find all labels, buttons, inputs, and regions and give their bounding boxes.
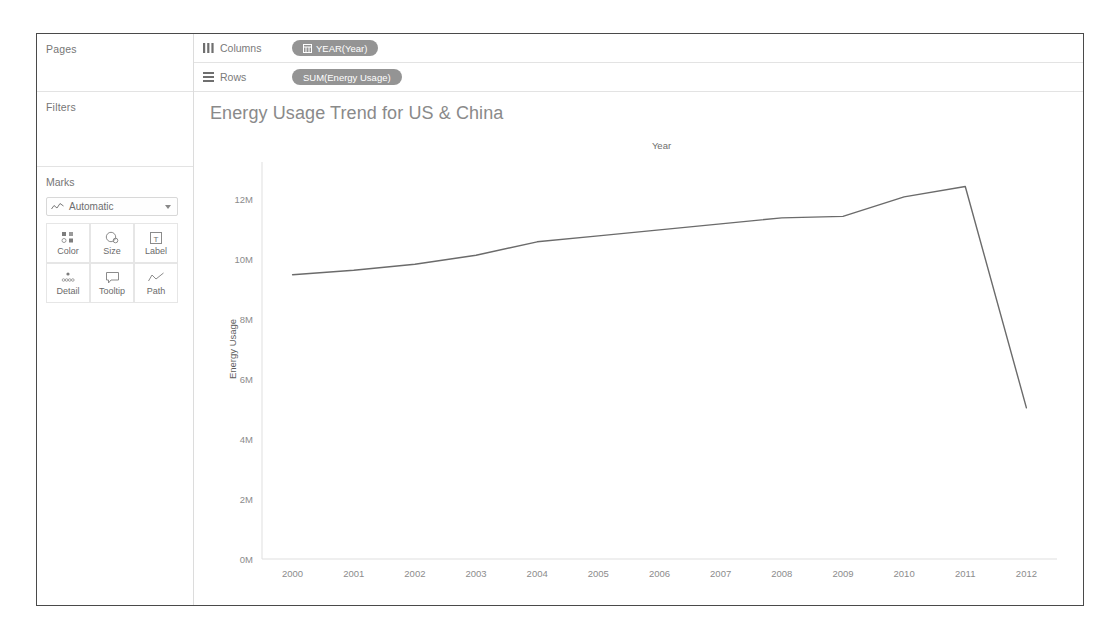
marks-button-detail[interactable]: Detail bbox=[46, 263, 90, 303]
filters-shelf[interactable]: Filters bbox=[37, 92, 193, 167]
y-axis-tick-label: 12M bbox=[235, 194, 254, 205]
marks-card: Marks Automatic bbox=[37, 167, 193, 605]
mark-type-dropdown[interactable]: Automatic bbox=[46, 197, 178, 216]
tooltip-bubble-icon bbox=[105, 270, 120, 285]
size-circles-icon bbox=[104, 230, 120, 245]
columns-icon bbox=[203, 43, 214, 53]
rows-icon bbox=[203, 72, 214, 82]
x-axis-tick-label: 2009 bbox=[832, 568, 853, 579]
line-chart-plot: 0M2M4M6M8M10M12M200020012002200320042005… bbox=[194, 92, 1083, 605]
marks-button-label: Path bbox=[147, 287, 166, 296]
marks-button-label[interactable]: T Label bbox=[134, 223, 178, 263]
left-sidebar: Pages Filters Marks Automatic bbox=[37, 34, 194, 605]
y-axis-tick-label: 2M bbox=[240, 494, 253, 505]
x-axis-tick-label: 2006 bbox=[649, 568, 670, 579]
pill-sum-energy-usage[interactable]: SUM(Energy Usage) bbox=[292, 69, 402, 85]
rows-shelf-label: Rows bbox=[220, 71, 292, 83]
marks-buttons-grid: Color Size T bbox=[46, 223, 178, 303]
marks-button-label: Detail bbox=[56, 287, 79, 296]
path-line-icon bbox=[148, 270, 164, 285]
x-axis-tick-label: 2000 bbox=[282, 568, 303, 579]
marks-button-path[interactable]: Path bbox=[134, 263, 178, 303]
series-line-0[interactable] bbox=[293, 186, 1027, 407]
y-axis-tick-label: 6M bbox=[240, 374, 253, 385]
filters-shelf-title: Filters bbox=[46, 101, 193, 113]
x-axis-tick-label: 2001 bbox=[343, 568, 364, 579]
line-chart-icon bbox=[51, 199, 64, 214]
x-axis-tick-label: 2007 bbox=[710, 568, 731, 579]
y-axis-tick-label: 4M bbox=[240, 434, 253, 445]
calendar-icon bbox=[303, 44, 312, 53]
marks-button-color[interactable]: Color bbox=[46, 223, 90, 263]
tableau-worksheet-frame: Pages Filters Marks Automatic bbox=[36, 33, 1084, 606]
visualization-canvas[interactable]: Energy Usage Trend for US & China Year E… bbox=[194, 92, 1083, 605]
x-axis-tick-label: 2002 bbox=[404, 568, 425, 579]
y-axis-tick-label: 10M bbox=[235, 254, 254, 265]
detail-dots-icon bbox=[60, 270, 76, 285]
columns-shelf[interactable]: Columns YEAR(Year) bbox=[194, 34, 1083, 63]
svg-text:T: T bbox=[154, 234, 159, 243]
marks-button-label: Size bbox=[103, 247, 121, 256]
x-axis-tick-label: 2011 bbox=[955, 568, 975, 579]
marks-button-size[interactable]: Size bbox=[90, 223, 134, 263]
y-axis-tick-label: 0M bbox=[240, 554, 253, 565]
pill-year[interactable]: YEAR(Year) bbox=[292, 40, 378, 56]
mark-type-label: Automatic bbox=[69, 201, 165, 212]
x-axis-tick-label: 2010 bbox=[894, 568, 915, 579]
pages-shelf-title: Pages bbox=[46, 43, 193, 55]
color-squares-icon bbox=[61, 230, 76, 245]
y-axis-tick-label: 8M bbox=[240, 314, 253, 325]
x-axis-tick-label: 2003 bbox=[465, 568, 486, 579]
pages-shelf[interactable]: Pages bbox=[37, 34, 193, 92]
x-axis-tick-label: 2004 bbox=[527, 568, 548, 579]
x-axis-tick-label: 2008 bbox=[771, 568, 792, 579]
marks-button-label: Color bbox=[57, 247, 79, 256]
label-text-icon: T bbox=[149, 230, 163, 245]
rows-shelf[interactable]: Rows SUM(Energy Usage) bbox=[194, 63, 1083, 92]
pill-sum-energy-usage-label: SUM(Energy Usage) bbox=[303, 72, 391, 83]
x-axis-tick-label: 2005 bbox=[588, 568, 609, 579]
columns-shelf-label: Columns bbox=[220, 42, 292, 54]
x-axis-tick-label: 2012 bbox=[1016, 568, 1037, 579]
worksheet-pane: Columns YEAR(Year) bbox=[194, 34, 1083, 605]
marks-button-label: Tooltip bbox=[99, 287, 125, 296]
chevron-down-icon bbox=[165, 205, 171, 209]
pill-year-label: YEAR(Year) bbox=[316, 43, 367, 54]
marks-button-label: Label bbox=[145, 247, 167, 256]
marks-card-title: Marks bbox=[46, 176, 193, 188]
marks-button-tooltip[interactable]: Tooltip bbox=[90, 263, 134, 303]
